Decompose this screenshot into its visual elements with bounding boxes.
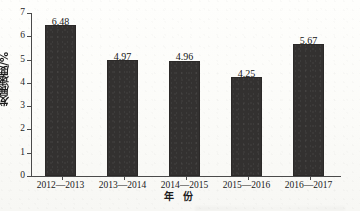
- y-tick-5: [27, 60, 31, 61]
- y-tick-label-6: 6: [20, 32, 25, 42]
- y-tick-7: [27, 13, 31, 14]
- y-axis-label: 发展速度/%: [0, 52, 13, 106]
- bar-value-label-2015-2016: 4.25: [238, 69, 256, 79]
- bar-value-label-2014-2015: 4.96: [176, 52, 194, 62]
- x-tick-label-2012-2013: 2012—2013: [37, 181, 85, 191]
- x-tick-label-2015-2016: 2015—2016: [223, 181, 271, 191]
- bar-2013-2014[interactable]: [107, 60, 138, 176]
- y-tick-1: [27, 153, 31, 154]
- bar-value-label-2013-2014: 4.97: [114, 52, 132, 62]
- x-tick-label-2016-2017: 2016—2017: [285, 181, 333, 191]
- bar-2014-2015[interactable]: [169, 61, 200, 177]
- bar-2015-2016[interactable]: [231, 77, 262, 176]
- y-axis-line: [31, 13, 32, 176]
- y-tick-label-0: 0: [20, 171, 25, 181]
- y-tick-2: [27, 129, 31, 130]
- bar-2016-2017[interactable]: [293, 44, 324, 176]
- y-tick-6: [27, 36, 31, 37]
- bar-value-label-2012-2013: 6.48: [52, 17, 70, 27]
- bar-2012-2013[interactable]: [45, 25, 76, 176]
- y-tick-label-3: 3: [20, 101, 25, 111]
- x-tick-label-2014-2015: 2014—2015: [161, 181, 209, 191]
- chart-figure: 发展速度/% 7 6 5 4 3 2 1 0 6.48 4.97 4.: [0, 0, 360, 211]
- y-tick-label-1: 1: [20, 148, 25, 158]
- scan-artifact: [195, 206, 345, 211]
- y-tick-label-4: 4: [20, 78, 25, 88]
- plot-area: 7 6 5 4 3 2 1 0 6.48 4.97 4.96 4.25 5.67: [31, 13, 341, 176]
- x-axis-label: 年 份: [0, 192, 360, 202]
- x-tick-label-2013-2014: 2013—2014: [99, 181, 147, 191]
- y-tick-label-5: 5: [20, 55, 25, 65]
- y-tick-label-2: 2: [20, 125, 25, 135]
- y-tick-label-7: 7: [20, 8, 25, 18]
- bar-value-label-2016-2017: 5.67: [300, 36, 318, 46]
- y-tick-3: [27, 106, 31, 107]
- y-tick-0: [27, 176, 31, 177]
- y-tick-4: [27, 83, 31, 84]
